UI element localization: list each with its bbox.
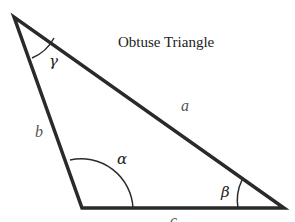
side-label-c: c: [170, 212, 177, 222]
side-label-a: a: [181, 97, 189, 114]
obtuse-triangle-diagram: Obtuse Triangle a b c γ α β: [0, 0, 295, 222]
side-label-b: b: [35, 123, 43, 140]
angle-label-beta: β: [220, 183, 230, 201]
angle-arc-beta: [237, 180, 242, 208]
angle-label-gamma: γ: [49, 52, 58, 70]
diagram-title: Obtuse Triangle: [118, 34, 215, 50]
angle-label-alpha: α: [117, 150, 127, 168]
